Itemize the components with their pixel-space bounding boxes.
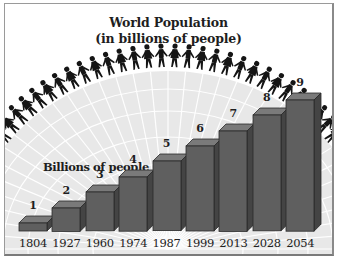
chart-frame: World Population (in billions of people)… bbox=[4, 3, 334, 256]
bar-3d-shape bbox=[19, 216, 54, 231]
bar-value-label: 2 bbox=[52, 184, 80, 197]
bar-1804: 1 bbox=[19, 216, 54, 231]
bar-1999: 6 bbox=[186, 139, 221, 231]
bar-3d-shape bbox=[253, 108, 288, 231]
bar-3d-shape bbox=[286, 93, 321, 231]
x-axis-tick-label: 2013 bbox=[215, 236, 251, 250]
bar-2013: 7 bbox=[219, 124, 254, 231]
bar-1974: 4 bbox=[119, 170, 154, 231]
bar-3d-shape bbox=[153, 154, 188, 231]
bar-3d-shape bbox=[119, 170, 154, 231]
bar-3d-shape bbox=[86, 185, 121, 231]
bar-1927: 2 bbox=[52, 201, 87, 231]
x-axis-tick-label: 1987 bbox=[149, 236, 185, 250]
bar-value-label: 4 bbox=[119, 153, 147, 166]
bar-value-label: 7 bbox=[219, 107, 247, 120]
bar-1960: 3 bbox=[86, 185, 121, 231]
x-axis-tick-label: 1974 bbox=[115, 236, 151, 250]
bar-2028: 8 bbox=[253, 108, 288, 231]
bar-3d-shape bbox=[52, 201, 87, 231]
x-axis-tick-label: 1960 bbox=[82, 236, 118, 250]
bar-series: 1180421927319604197451987619997201382028… bbox=[5, 4, 332, 254]
bar-value-label: 1 bbox=[19, 199, 47, 212]
bar-2054: 9 bbox=[286, 93, 321, 231]
bar-3d-shape bbox=[186, 139, 221, 231]
bar-3d-shape bbox=[219, 124, 254, 231]
bar-value-label: 9 bbox=[286, 76, 314, 89]
bar-value-label: 3 bbox=[86, 168, 114, 181]
x-axis-tick-label: 2028 bbox=[249, 236, 285, 250]
bar-value-label: 8 bbox=[253, 91, 281, 104]
bar-value-label: 5 bbox=[153, 137, 181, 150]
bar-1987: 5 bbox=[153, 154, 188, 231]
x-axis-tick-label: 1804 bbox=[15, 236, 51, 250]
x-axis-tick-label: 2054 bbox=[282, 236, 318, 250]
bar-value-label: 6 bbox=[186, 122, 214, 135]
x-axis-tick-label: 1927 bbox=[48, 236, 84, 250]
x-axis-tick-label: 1999 bbox=[182, 236, 218, 250]
